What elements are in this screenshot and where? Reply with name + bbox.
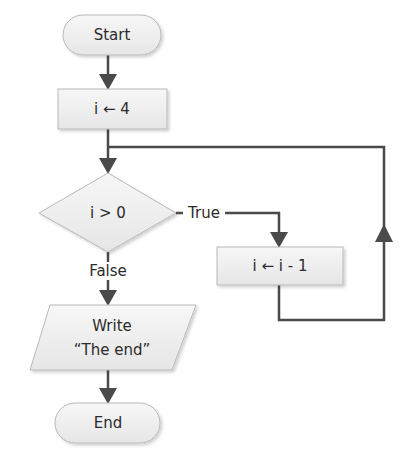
start-label: Start — [94, 26, 131, 44]
end-node: End — [55, 403, 160, 443]
write-io-node: Write “The end” — [30, 305, 196, 370]
decrement-process-node: i ← i - 1 — [217, 247, 343, 285]
write-label-line1: Write — [92, 317, 132, 335]
arrow-up-icon — [375, 224, 393, 242]
arrow-down-icon — [99, 388, 117, 404]
init-label: i ← 4 — [94, 100, 130, 118]
condition-decision-node: i > 0 — [39, 173, 176, 252]
arrow-down-icon — [99, 74, 117, 90]
init-process-node: i ← 4 — [58, 89, 167, 129]
arrow-down-icon — [99, 158, 117, 174]
false-label: False — [89, 262, 127, 280]
condition-label: i > 0 — [90, 204, 126, 222]
end-label: End — [94, 414, 123, 432]
arrow-down-icon — [270, 232, 288, 248]
start-node: Start — [63, 15, 161, 55]
write-label-line2: “The end” — [74, 341, 150, 359]
edge-loop-back — [108, 147, 384, 320]
arrow-down-icon — [99, 290, 117, 306]
true-label: True — [187, 204, 220, 222]
decrement-label: i ← i - 1 — [253, 257, 308, 275]
flowchart-canvas: Start i ← 4 i > 0 True False i ← i - 1 W… — [0, 0, 400, 458]
